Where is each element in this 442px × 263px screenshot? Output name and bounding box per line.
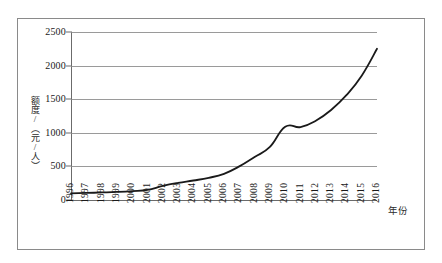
x-tick-label: 1997 bbox=[82, 183, 92, 203]
x-tick-label: 2005 bbox=[204, 183, 214, 203]
x-axis-title: 年份 bbox=[388, 207, 408, 217]
x-tick-label: 2012 bbox=[311, 183, 321, 203]
chart-figure: 05001000150020002500 额度/（元/人） 1996199719… bbox=[0, 0, 442, 263]
x-tick-label: 2004 bbox=[189, 183, 199, 203]
y-tick-label: 1500 bbox=[45, 94, 66, 104]
x-tick-label: 1996 bbox=[66, 183, 76, 203]
y-tick-label: 1000 bbox=[45, 128, 66, 138]
y-axis-title: 额度/（元/人） bbox=[24, 96, 40, 176]
x-tick-label: 2006 bbox=[219, 183, 229, 203]
x-tick-label: 2016 bbox=[372, 183, 382, 203]
x-tick-labels: 1996199719981999200020012002200320042005… bbox=[71, 203, 377, 245]
x-tick-label: 2001 bbox=[143, 183, 153, 203]
x-tick-label: 2007 bbox=[235, 183, 245, 203]
x-tick-label: 2011 bbox=[296, 183, 306, 203]
x-tick-label: 1998 bbox=[97, 183, 107, 203]
x-tick-label: 2000 bbox=[127, 183, 137, 203]
x-tick-label: 2014 bbox=[342, 183, 352, 203]
y-tick-label: 2000 bbox=[45, 61, 66, 71]
x-tick-label: 2002 bbox=[158, 183, 168, 203]
x-tick-label: 2015 bbox=[357, 183, 367, 203]
x-tick-label: 2013 bbox=[326, 183, 336, 203]
y-tick-label: 2500 bbox=[45, 27, 66, 37]
x-tick-label: 2003 bbox=[173, 183, 183, 203]
series-path bbox=[71, 49, 377, 193]
x-tick-label: 2008 bbox=[250, 183, 260, 203]
x-tick-label: 1999 bbox=[112, 183, 122, 203]
data-series-line bbox=[71, 32, 377, 200]
y-tick-label: 500 bbox=[50, 161, 66, 171]
x-tick-label: 2009 bbox=[265, 183, 275, 203]
x-tick-label: 2010 bbox=[280, 183, 290, 203]
